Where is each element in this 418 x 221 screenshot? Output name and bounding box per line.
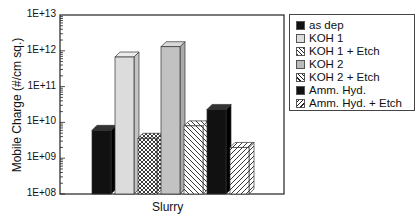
bar-koh-1 (115, 52, 139, 194)
y-tick-label: 1E+12 (27, 44, 56, 55)
y-axis-label: Mobile Charge (#/cm sq.) (10, 30, 24, 180)
bar-as-dep (92, 125, 116, 194)
swatch-diagonal-forward-icon (296, 99, 305, 108)
bar-amm-hyd-etch (230, 142, 254, 194)
legend-item: as dep (296, 19, 414, 32)
legend: as dep KOH 1 KOH 1 + Etch KOH 2 KOH 2 + … (289, 14, 415, 111)
y-tick-label: 1E+08 (27, 187, 56, 198)
swatch-solid-black-icon (296, 21, 305, 30)
swatch-gray-icon (296, 60, 305, 69)
x-axis-label: Slurry (152, 200, 183, 214)
legend-item: KOH 2 + Etch (296, 71, 414, 84)
swatch-crosshatch-icon (296, 47, 305, 56)
swatch-light-gray-icon (296, 34, 305, 43)
y-tick-label: 1E+10 (27, 115, 56, 126)
legend-item: KOH 2 (296, 58, 414, 71)
swatch-diagonal-back-icon (296, 73, 305, 82)
legend-item: KOH 1 (296, 32, 414, 45)
y-tick-label: 1E+13 (27, 8, 56, 19)
bar-koh-1-etch (138, 133, 162, 194)
bar-koh-2 (161, 42, 185, 194)
y-tick-label: 1E+11 (28, 80, 56, 91)
y-tick-label: 1E+09 (27, 151, 56, 162)
bar-koh-2-etch (184, 121, 208, 194)
legend-item: KOH 1 + Etch (296, 45, 414, 58)
swatch-solid-black-icon (296, 86, 305, 95)
legend-item: Amm. Hyd. + Etch (296, 97, 414, 110)
bar-amm-hyd (207, 104, 231, 194)
legend-item: Amm. Hyd. (296, 84, 414, 97)
